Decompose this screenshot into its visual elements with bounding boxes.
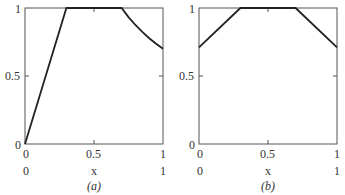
panel-a-ytick-1: 1 xyxy=(15,3,21,15)
panel-b-curve xyxy=(199,8,337,47)
panel-a-xsec-0: 0 xyxy=(23,165,29,177)
panel-b-xsec-1: 1 xyxy=(334,165,340,177)
panel-a-ytick-0: 0 xyxy=(15,139,21,151)
panel-b-ytick-0.5: 0.5 xyxy=(179,70,194,82)
panel-b-xtick-1: 1 xyxy=(334,148,340,160)
figure-canvas xyxy=(0,0,345,195)
panel-a-plot xyxy=(25,8,163,144)
panel-a-xtick-0.5: 0.5 xyxy=(86,148,101,160)
panel-b-xlabel: x xyxy=(265,165,271,177)
panel-b-xtick-0.5: 0.5 xyxy=(260,148,275,160)
panel-b-ytick-1: 1 xyxy=(189,3,195,15)
panel-a-xtick-1: 1 xyxy=(160,148,166,160)
panel-a-xtick-0: 0 xyxy=(23,148,29,160)
panel-b-xtick-0: 0 xyxy=(197,148,203,160)
panel-a-curve xyxy=(25,8,163,144)
panel-b-plot xyxy=(199,8,337,144)
panel-a-ytick-0.5: 0.5 xyxy=(5,70,20,82)
panel-a-xsec-1: 1 xyxy=(160,165,166,177)
panel-a-xlabel: x xyxy=(91,165,97,177)
panel-b-ytick-0: 0 xyxy=(189,139,195,151)
panel-b-caption: (b) xyxy=(261,180,275,192)
panel-a-caption: (a) xyxy=(87,180,101,192)
panel-b-xsec-0: 0 xyxy=(197,165,203,177)
